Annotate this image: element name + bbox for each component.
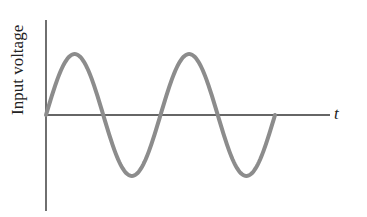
y-axis-label: Input voltage [8,25,28,115]
waveform-diagram [0,0,367,217]
x-axis-label: t [334,104,339,124]
